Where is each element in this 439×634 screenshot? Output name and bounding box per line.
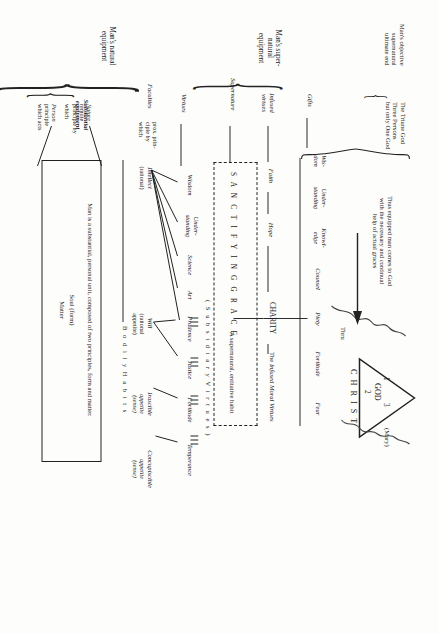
natural-label-l2: equipment [98, 12, 106, 80]
matter-text: Matter [57, 162, 65, 458]
nvirtue-art: Art [185, 284, 193, 306]
nature-annotation: Nature remote principle by which [63, 104, 92, 134]
arrow-to-god [347, 233, 365, 325]
objective-end-label: Man's objective supernatural ultimate en… [382, 24, 405, 66]
note-line1: Thus equipped man comes to God [385, 196, 393, 286]
nature-l3: which [63, 104, 70, 134]
subsidiary-ticks [185, 316, 203, 496]
faculty-irascible-qual-l2: (sense) [131, 380, 138, 428]
soul-form-text: Soul (form) [67, 162, 75, 458]
faculties-desc-l1: prox. prin- [151, 122, 158, 148]
supernatural-label-l1: Man's super- [273, 16, 281, 80]
gift-wisdom: Wis- dom [312, 144, 327, 178]
gift-knowledge: Knowl- edge [312, 220, 327, 256]
faculty-irascible-qual: appetite (sense) [131, 380, 145, 428]
sanctifying-grace-desc: A supernatural, entitative habit [227, 332, 235, 413]
man-substance-text: Man is a substantial, personal unit, com… [85, 162, 93, 458]
faculty-will-qual: (rational appetite) [131, 302, 145, 346]
supernature-connector [233, 318, 263, 319]
hope-rule [267, 246, 268, 292]
nvirtue-science: Science [185, 246, 193, 284]
virtue-hope: Hope [266, 214, 274, 246]
nvirtue-understanding-l2: standing [184, 206, 192, 246]
gift-wisdom-l2: dom [312, 144, 320, 178]
faculty-will-qual-l1: (rational [138, 302, 145, 346]
supernatural-equipment-brace: { [180, 82, 305, 91]
infused-virtues-rule [267, 126, 268, 162]
note-line3: help of actual graces [370, 196, 378, 286]
triune-god-line2: Three Persons [391, 102, 399, 149]
faculties-desc-l3: which [136, 122, 143, 148]
gift-counsel: Counsel [313, 258, 321, 300]
triune-god-line1: The Triune God [398, 102, 406, 149]
faculty-intellect-qual: (rational) [138, 154, 145, 202]
note-line2: with the necessary and continual [378, 196, 386, 286]
faculties-row-label: Faculties [145, 84, 153, 109]
gift-knowledge-l2: edge [312, 220, 320, 256]
faculty-intellect: Intellect [145, 156, 153, 200]
faculties-desc: prox. prin- ciple by which [136, 122, 158, 148]
faculties-desc-l2: ciple by [144, 122, 151, 148]
triune-god-text: The Triune God Three Persons but only On… [383, 102, 406, 149]
bodily-habits-rule [122, 160, 123, 322]
actual-graces-note: Thus equipped man comes to God with the … [370, 196, 393, 286]
supernatural-label-l2: natural [264, 16, 272, 80]
nvirtue-wisdom: Wisdom [185, 164, 193, 206]
faculty-will: Will [145, 310, 153, 336]
natural-label-l1: Man's natural [107, 12, 115, 80]
gifts-axis-rule [299, 158, 300, 426]
bodily-habits-label: B o d i l y H a b i t s [120, 326, 128, 414]
nature-name: Nature [85, 104, 92, 134]
diagram-page: Man's objective supernatural ultimate en… [0, 0, 439, 634]
infused-moral-pre: The [268, 352, 275, 364]
diagram-sheet: Man's objective supernatural ultimate en… [0, 0, 439, 634]
virtue-charity: CHARITY [267, 292, 275, 344]
objective-end-line3: ultimate end [382, 24, 390, 66]
gift-understanding-l1: Under- [319, 178, 327, 218]
infused-moral-it: Infused Moral Virtues [268, 364, 275, 422]
natural-virtues-row-label: Virtues [179, 94, 187, 113]
gifts-row-rule [306, 118, 307, 148]
faculty-concupiscible-qual-l1: appetite [138, 434, 145, 504]
supernature-rule [229, 126, 230, 162]
supernatural-label-l3: equipment [256, 16, 264, 80]
gift-knowledge-l1: Knowl- [319, 220, 327, 256]
gift-fear: Fear [313, 394, 321, 424]
virtue-faith: Faith [266, 160, 274, 192]
veil-squiggle [325, 300, 419, 450]
gift-fortitude: Fortitude [313, 340, 321, 388]
faith-rule [267, 192, 268, 214]
nvirtue-understanding: Under- standing [184, 206, 199, 246]
supernatural-equipment-label: Man's super- natural equipment [256, 16, 281, 80]
infused-virtues-row-label: Infused virtues [260, 82, 275, 124]
subsidiary-virtues-heading: ( S u b s i d i a r y V i r t u e s ) [203, 300, 211, 437]
objective-end-brace: { [361, 94, 392, 99]
infused-virtues-l1: Infused [267, 82, 275, 124]
gift-understanding-l2: standing [312, 178, 320, 218]
faculty-irascible-qual-l1: appetite [138, 380, 145, 428]
man-substance-line1: Man is a substantial, personal unit, com… [85, 162, 93, 458]
gifts-row-label: Gifts [305, 94, 313, 107]
faculty-concupiscible-qual: appetite (sense) [131, 434, 145, 504]
person-annotation: Person principle which acts [35, 104, 57, 130]
faculty-concupiscible: Concupiscible [145, 434, 153, 504]
natural-equipment-label: Man's natural equipment [98, 12, 115, 80]
supernature-row-label: Supernature [228, 78, 236, 110]
nature-person-brace: { [20, 92, 85, 98]
nature-l1: remote [78, 104, 85, 134]
infused-moral-virtues: The Infused Moral Virtues [267, 352, 275, 422]
nature-l2: principle by [70, 104, 77, 134]
sanctifying-grace-text: S A N C T I F Y I N G G R A C E [228, 172, 236, 337]
gift-wisdom-l1: Wis- [319, 144, 327, 178]
triune-god-line3: but only One God [383, 102, 391, 149]
nvirtue-understanding-l1: Under- [191, 206, 199, 246]
person-l1: principle [43, 104, 50, 130]
faculty-concupiscible-qual-l2: (sense) [131, 434, 138, 504]
objective-end-line1: Man's objective [397, 24, 405, 66]
gift-understanding: Under- standing [312, 178, 327, 218]
person-l2: which acts [35, 104, 42, 130]
gift-piety: Piety [313, 304, 321, 334]
infused-virtues-l2: virtues [260, 82, 268, 124]
faculty-will-qual-l2: appetite) [131, 302, 138, 346]
person-name: Person [50, 104, 57, 130]
